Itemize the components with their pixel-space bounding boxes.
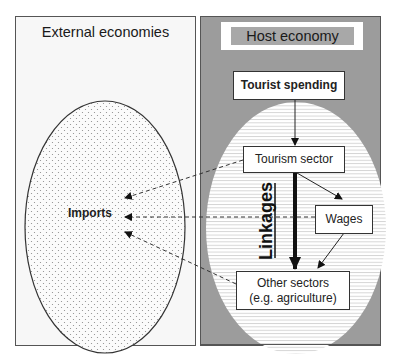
external-economies-title: External economies [15, 22, 196, 42]
host-ellipse-clip-bottom [201, 344, 380, 345]
imports-label: Imports [62, 205, 118, 221]
tourist-spending-box: Tourist spending [233, 71, 345, 100]
wages-box: Wages [315, 205, 373, 234]
other-sectors-line1: Other sectors [257, 276, 329, 291]
host-economy-title: Host economy [231, 26, 354, 46]
other-sectors-box: Other sectors (e.g. agriculture) [236, 271, 350, 310]
tourism-sector-box: Tourism sector [243, 146, 345, 173]
other-sectors-line2: (e.g. agriculture) [249, 291, 336, 306]
linkages-label: Linkages [256, 181, 276, 261]
imports-ellipse [25, 101, 185, 353]
